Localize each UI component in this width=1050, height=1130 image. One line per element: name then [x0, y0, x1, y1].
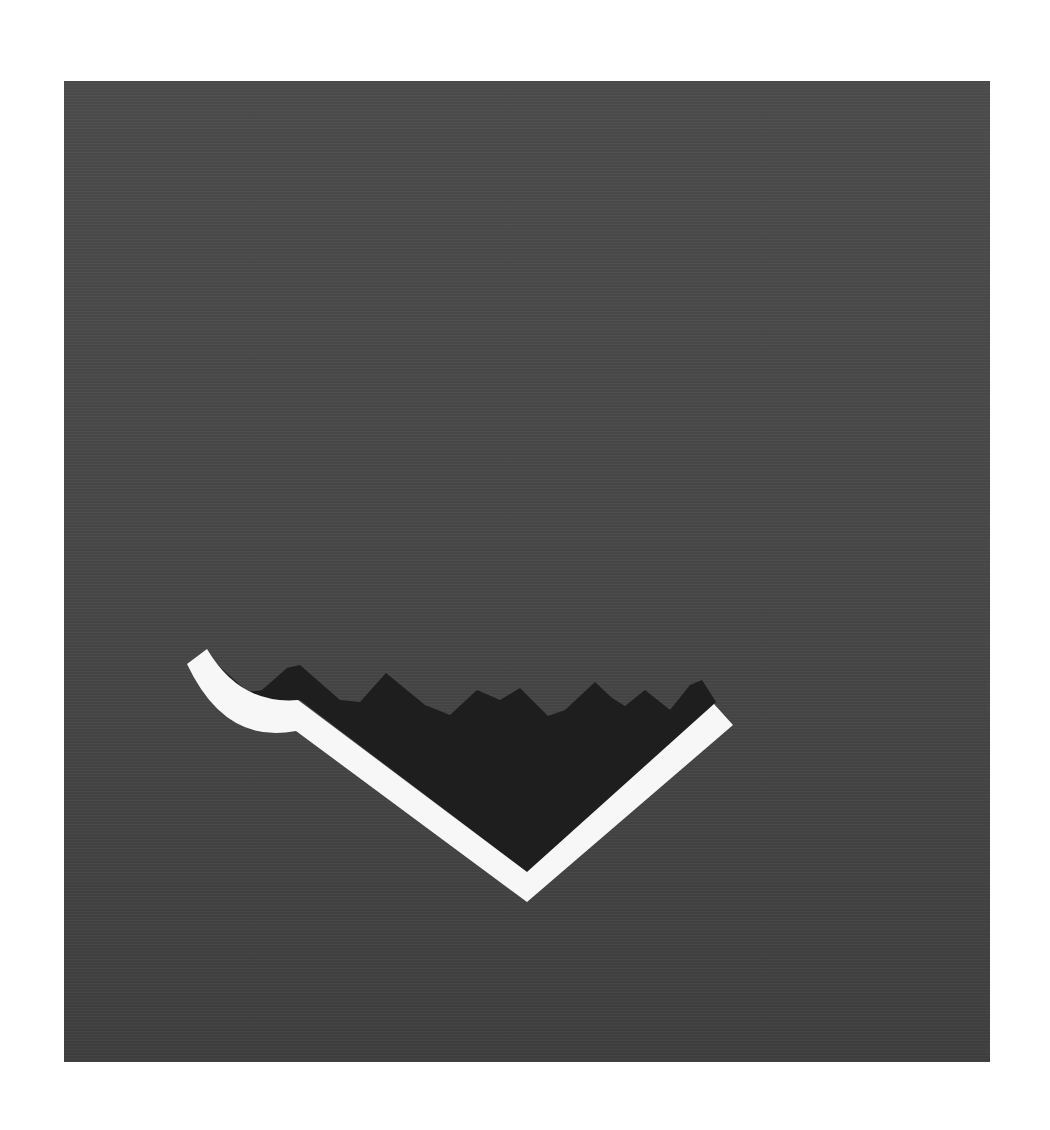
abstract-shape: [0, 0, 1050, 1130]
